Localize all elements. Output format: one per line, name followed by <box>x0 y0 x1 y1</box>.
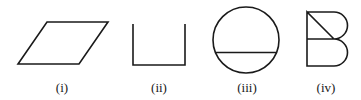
parallelogram-figure <box>18 22 108 64</box>
figure-label-i: (i) <box>56 80 68 96</box>
circle-outline <box>213 7 279 73</box>
figure-label-iv: (iv) <box>317 80 336 96</box>
open-rectangle-figure <box>133 24 185 65</box>
letter-b-figure <box>307 12 348 66</box>
figure-label-iii: (iii) <box>237 80 257 96</box>
circle-with-chord-figure <box>213 7 279 73</box>
figure-label-ii: (ii) <box>151 80 167 96</box>
figures-canvas <box>0 0 361 100</box>
